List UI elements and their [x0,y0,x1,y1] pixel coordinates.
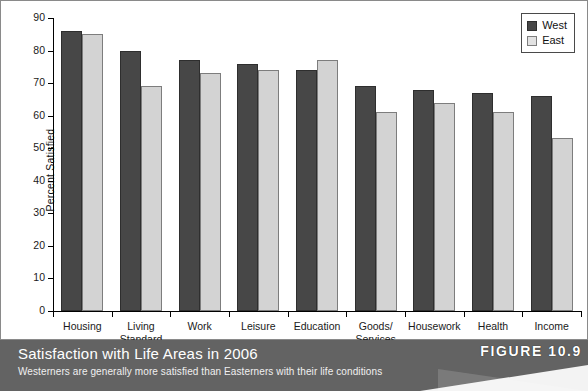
x-category-label: Health [464,320,523,333]
bar-west [413,90,434,311]
y-axis-line [53,18,54,312]
bar-west [179,60,200,311]
x-category-label: Income [522,320,581,333]
x-tick-mark [464,311,465,317]
chart-legend: West East [521,13,575,53]
y-tick-label: 10 [33,271,45,284]
figure-caption-title: Satisfaction with Life Areas in 2006 [18,345,258,362]
y-tick-label: 80 [33,44,45,57]
x-tick-mark [170,311,171,317]
bar-east [258,70,279,311]
y-tick-label: 60 [33,109,45,122]
x-category-label: Education [288,320,347,333]
bar-west [296,70,317,311]
bar-east [141,86,162,311]
legend-item-west[interactable]: West [527,18,567,33]
x-tick-mark [53,311,54,317]
y-tick-mark [48,83,53,84]
y-tick-label: 0 [39,304,45,317]
caption-wedge-icon [420,365,588,391]
y-tick-label: 70 [33,76,45,89]
y-tick-mark [48,18,53,19]
y-tick-label: 90 [33,11,45,24]
x-tick-mark [346,311,347,317]
y-tick-mark [48,51,53,52]
x-tick-mark [522,311,523,317]
bar-east [552,138,573,311]
x-category-label: Housework [405,320,464,333]
bar-east [376,112,397,311]
x-tick-mark [581,311,582,317]
x-tick-mark [405,311,406,317]
figure-caption-bar: Satisfaction with Life Areas in 2006 Wes… [0,340,588,391]
figure-caption-subtitle: Westerners are generally more satisfied … [18,366,382,377]
legend-swatch-east-icon [527,36,537,46]
chart-plot-panel: Percent Satisfied 0102030405060708090 Ho… [0,0,588,340]
bar-west [120,51,141,311]
x-axis-line [53,311,581,312]
bar-east [317,60,338,311]
y-tick-label: 20 [33,239,45,252]
y-tick-label: 30 [33,206,45,219]
legend-swatch-west-icon [527,21,537,31]
legend-item-east[interactable]: East [527,33,567,48]
bar-west [61,31,82,311]
bar-east [200,73,221,311]
y-tick-mark [48,116,53,117]
y-tick-mark [48,148,53,149]
y-tick-mark [48,246,53,247]
y-tick-mark [48,213,53,214]
x-tick-mark [112,311,113,317]
plot-area: 0102030405060708090 HousingLivingStandar… [53,18,581,311]
y-tick-mark [48,181,53,182]
legend-label-west: West [542,19,567,32]
figure-container: Percent Satisfied 0102030405060708090 Ho… [0,0,588,391]
x-tick-mark [229,311,230,317]
figure-number-badge: FIGURE 10.9 [480,343,582,359]
x-tick-mark [288,311,289,317]
bar-east [493,112,514,311]
y-tick-mark [48,278,53,279]
bar-west [355,86,376,311]
x-category-label: Leisure [229,320,288,333]
bar-east [82,34,103,311]
bar-west [531,96,552,311]
y-tick-label: 40 [33,174,45,187]
y-tick-label: 50 [33,141,45,154]
bar-west [472,93,493,311]
bar-east [434,103,455,311]
legend-label-east: East [542,34,564,47]
x-category-label: Housing [53,320,112,333]
x-category-label: Work [170,320,229,333]
bar-west [237,64,258,311]
